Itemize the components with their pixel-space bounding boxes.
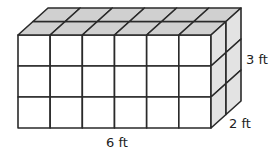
width-label: 2 ft	[229, 116, 251, 131]
front-cube-face	[147, 35, 179, 66]
front-cube-face	[50, 66, 82, 97]
front-cube-face	[50, 35, 82, 66]
front-cube-face	[115, 97, 147, 128]
front-cube-face	[179, 35, 211, 66]
front-cube-face	[147, 97, 179, 128]
front-cube-face	[115, 66, 147, 97]
front-cube-face	[82, 35, 114, 66]
front-cube-face	[18, 97, 50, 128]
length-label: 6 ft	[106, 135, 128, 150]
front-cube-face	[179, 97, 211, 128]
front-cube-face	[18, 66, 50, 97]
front-cube-face	[18, 35, 50, 66]
front-cube-face	[179, 66, 211, 97]
front-cube-face	[147, 66, 179, 97]
front-cube-face	[115, 35, 147, 66]
front-cube-face	[82, 97, 114, 128]
front-cube-face	[82, 66, 114, 97]
height-label: 3 ft	[246, 52, 268, 67]
front-cube-face	[50, 97, 82, 128]
rectangular-prism-diagram: 3 ft 2 ft 6 ft	[0, 0, 280, 156]
